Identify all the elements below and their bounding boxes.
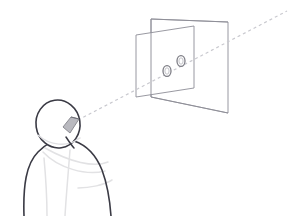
shoulder-left-outline xyxy=(24,140,60,216)
line-of-sight-illustration xyxy=(0,0,292,216)
marker-near-inner-icon xyxy=(165,68,169,74)
far-plane-top-edge xyxy=(151,19,228,22)
far-plane-bottom-edge xyxy=(151,97,228,113)
marker-far-inner-icon xyxy=(179,58,183,64)
faint-shoulder-curve xyxy=(43,152,105,172)
faint-torso-line-mid xyxy=(65,150,70,216)
shoulder-right-outline xyxy=(74,141,111,216)
diagram-canvas: Line of sight through two picture planes… xyxy=(0,0,292,216)
faint-torso-line-left xyxy=(44,158,47,216)
